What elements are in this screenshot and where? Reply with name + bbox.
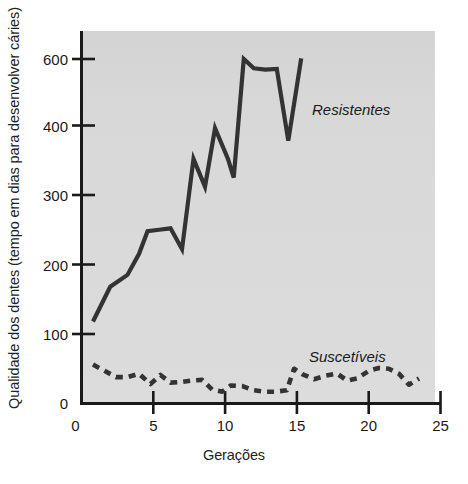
y-tick-label-0: 0	[18, 394, 68, 411]
y-tick-label-100: 100	[18, 326, 68, 343]
y-tick-label-200: 200	[18, 256, 68, 273]
x-tick-label-25: 25	[432, 417, 449, 434]
y-tick-label-600: 600	[18, 51, 68, 68]
x-tick-label-5: 5	[149, 417, 157, 434]
x-tick-label-0: 0	[71, 417, 79, 434]
series-label-resistentes: Resistentes	[312, 101, 390, 118]
y-tick-label-400: 400	[18, 117, 68, 134]
y-tick-label-300: 300	[18, 187, 68, 204]
x-axis-title: Gerações	[0, 447, 468, 463]
series-label-suscetiveis: Suscetíveis	[309, 348, 386, 365]
x-tick-label-10: 10	[217, 417, 234, 434]
x-tick-label-15: 15	[289, 417, 306, 434]
x-tick-label-20: 20	[360, 417, 377, 434]
chart-plot-svg	[0, 0, 468, 484]
chart-figure: Qualidade dos dentes (tempo em dias para…	[0, 0, 468, 484]
